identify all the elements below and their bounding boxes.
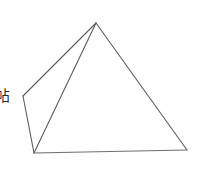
figure-canvas: 帖 — [0, 0, 199, 176]
edge-apex-to-base-front — [34, 23, 96, 153]
edge-apex-to-base-right — [96, 23, 187, 150]
edge-base-left-to-base-front — [23, 96, 34, 153]
pyramid-figure — [0, 0, 199, 176]
edge-base-front-to-base-right — [34, 150, 187, 153]
side-label-text: 帖 — [0, 86, 13, 106]
edge-apex-to-base-left — [23, 23, 96, 96]
